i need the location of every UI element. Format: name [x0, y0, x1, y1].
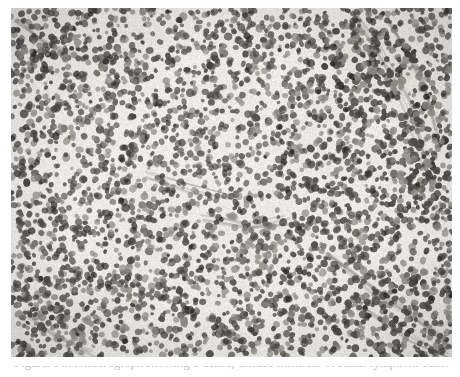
- figure-caption-text: Figure. Photomicrograph showing a dense,…: [11, 366, 452, 370]
- micrograph-plate: [11, 8, 452, 357]
- figure-caption: Figure. Photomicrograph showing a dense,…: [11, 366, 452, 377]
- micrograph-image: [11, 8, 452, 357]
- figure-root: Figure. Photomicrograph showing a dense,…: [0, 0, 460, 377]
